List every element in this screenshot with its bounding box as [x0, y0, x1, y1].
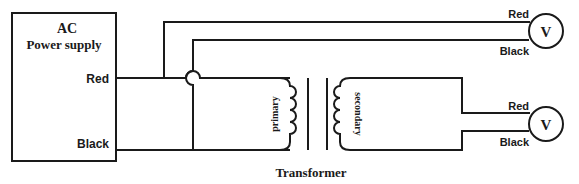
transformer-label: Transformer — [275, 165, 346, 180]
primary-coil — [280, 78, 296, 150]
secondary-coil — [334, 78, 350, 150]
power-supply-title: Power supply — [26, 37, 102, 52]
voltmeter-bottom-symbol: V — [541, 117, 552, 133]
voltmeter-top-symbol: V — [541, 24, 552, 40]
power-supply-title-ac: AC — [57, 21, 77, 36]
power-supply-red-terminal-label: Red — [86, 72, 109, 86]
voltmeter-top-black-label: Black — [500, 45, 530, 57]
power-supply-black-terminal-label: Black — [77, 137, 109, 151]
transformer: primary secondary Transformer — [269, 78, 364, 180]
voltmeter-top-red-label: Red — [508, 8, 529, 20]
voltmeter-bottom-red-label: Red — [508, 100, 529, 112]
top-voltmeter-red-wire — [164, 22, 530, 78]
red-supply-wire — [116, 71, 290, 78]
primary-label: primary — [269, 96, 280, 132]
voltmeter-bottom-black-label: Black — [500, 136, 530, 148]
circuit-diagram: AC Power supply Red Black primary second… — [0, 0, 579, 184]
voltmeter-bottom: V Red Black — [500, 100, 563, 148]
bottom-voltmeter-red-wire — [350, 78, 530, 113]
voltmeter-top: V Red Black — [500, 8, 563, 57]
ac-power-supply: AC Power supply Red Black — [12, 13, 116, 161]
secondary-label: secondary — [353, 92, 364, 135]
